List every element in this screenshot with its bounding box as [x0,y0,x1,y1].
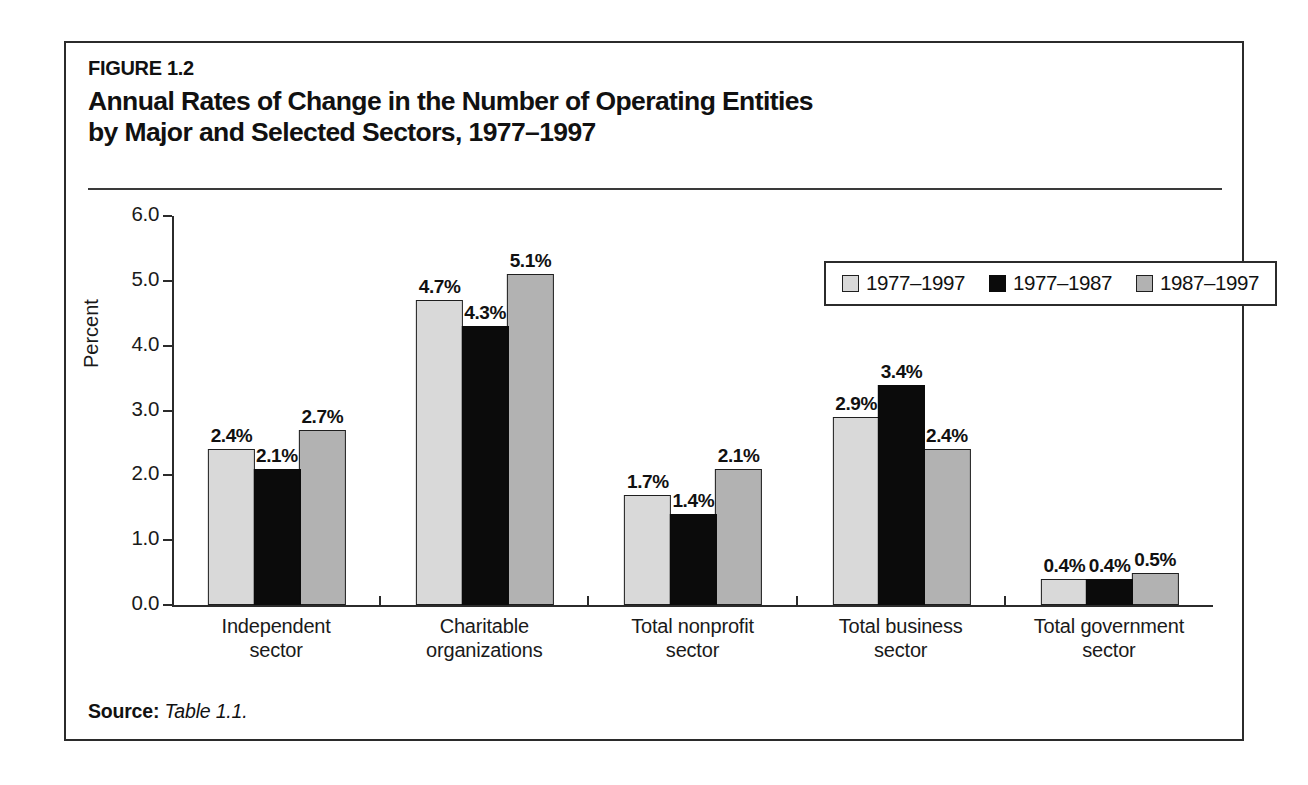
bar[interactable]: 0.4% [1086,579,1133,605]
chart-legend: 1977–19971977–19871987–1997 [824,261,1277,306]
bar[interactable]: 0.4% [1041,579,1088,605]
y-tick-label: 4.0 [95,332,159,356]
bar[interactable]: 3.4% [878,385,925,605]
bar[interactable]: 2.1% [715,469,762,605]
bar[interactable]: 1.7% [624,495,671,605]
legend-label: 1977–1997 [866,271,965,295]
legend-swatch-icon [989,275,1006,292]
bar[interactable]: 2.1% [253,469,300,605]
bar[interactable]: 5.1% [507,274,554,605]
bar-value-label: 1.7% [627,471,669,493]
x-axis-line [172,605,1213,607]
bar-group: 4.7%4.3%5.1% [380,216,588,605]
y-tick-label: 0.0 [95,591,159,615]
y-tick-0.0 [163,604,172,606]
figure-frame: FIGURE 1.2 Annual Rates of Change in the… [64,41,1244,741]
category-label: Total business sector [797,614,1005,663]
category-label: Total government sector [1005,614,1213,663]
bar-group: 1.7%1.4%2.1% [588,216,796,605]
bar-value-label: 0.4% [1089,555,1131,577]
title-divider [88,188,1222,190]
bar-value-label: 2.7% [301,406,343,428]
bar-value-label: 2.4% [926,425,968,447]
y-tick-label: 1.0 [95,526,159,550]
legend-item[interactable]: 1987–1997 [1136,271,1259,295]
bar-value-label: 2.4% [211,425,253,447]
y-tick-label: 5.0 [95,267,159,291]
y-tick-5.0 [163,280,172,282]
bar[interactable]: 2.7% [299,430,346,605]
bar[interactable]: 4.7% [416,300,463,605]
source-note: Source: Table 1.1. [88,700,247,723]
source-value: Table 1.1. [164,700,247,722]
legend-swatch-icon [1136,275,1153,292]
y-tick-label: 2.0 [95,461,159,485]
legend-label: 1987–1997 [1160,271,1259,295]
bar-group: 2.4%2.1%2.7% [172,216,380,605]
bar-value-label: 3.4% [881,361,923,383]
legend-swatch-icon [842,275,859,292]
bar-value-label: 0.4% [1043,555,1085,577]
y-tick-2.0 [163,474,172,476]
bar[interactable]: 2.4% [923,449,970,605]
y-tick-3.0 [163,410,172,412]
figure-number: FIGURE 1.2 [88,57,1208,80]
bar-value-label: 2.9% [835,393,877,415]
bar-value-label: 4.3% [464,302,506,324]
bar[interactable]: 2.9% [833,417,880,605]
source-label: Source: [88,700,159,722]
category-label: Total nonprofit sector [588,614,796,663]
bar[interactable]: 2.4% [208,449,255,605]
chart-area: Percent 0.01.02.03.04.05.06.0 2.4%2.1%2.… [66,198,1246,688]
legend-item[interactable]: 1977–1997 [842,271,965,295]
bar[interactable]: 0.5% [1132,573,1179,605]
bar-value-label: 5.1% [510,250,552,272]
y-tick-4.0 [163,345,172,347]
category-label: Charitable organizations [380,614,588,663]
bar-value-label: 4.7% [419,276,461,298]
figure-title: Annual Rates of Change in the Number of … [88,86,1208,148]
category-label: Independent sector [172,614,380,663]
figure-header: FIGURE 1.2 Annual Rates of Change in the… [88,57,1208,148]
bar[interactable]: 4.3% [462,326,509,605]
y-tick-1.0 [163,539,172,541]
legend-label: 1977–1987 [1013,271,1112,295]
bar-value-label: 2.1% [718,445,760,467]
y-tick-6.0 [163,215,172,217]
bar-value-label: 0.5% [1134,549,1176,571]
y-tick-label: 6.0 [95,202,159,226]
bar-value-label: 2.1% [256,445,298,467]
bar[interactable]: 1.4% [670,514,717,605]
y-tick-label: 3.0 [95,397,159,421]
legend-item[interactable]: 1977–1987 [989,271,1112,295]
bar-value-label: 1.4% [672,490,714,512]
